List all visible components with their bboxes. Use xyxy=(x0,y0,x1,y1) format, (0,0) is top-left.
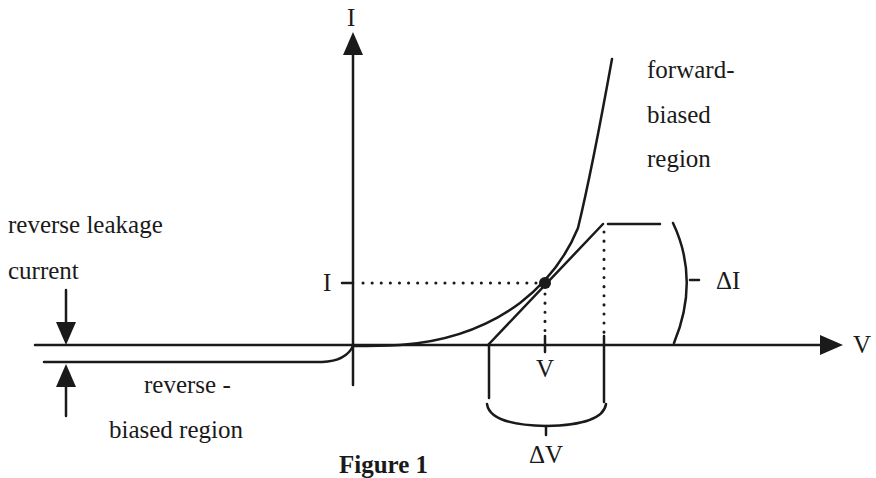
reverse-region-label-2: biased region xyxy=(109,417,243,442)
delta-i-bracket xyxy=(673,223,687,343)
leakage-arrow-down-head xyxy=(56,322,76,345)
i-axis-arrowhead xyxy=(343,32,363,55)
delta-v-label: ΔV xyxy=(529,442,563,467)
forward-bias-curve xyxy=(353,59,612,346)
diagram-canvas xyxy=(0,0,876,478)
forward-region-label-2: biased xyxy=(647,102,711,127)
diode-iv-diagram: I V forward- biased region reverse leaka… xyxy=(0,0,876,478)
reverse-bias-curve xyxy=(44,346,353,362)
operating-current-label: I xyxy=(323,270,331,295)
leakage-label-1: reverse leakage xyxy=(8,212,163,237)
v-axis-label: V xyxy=(853,332,871,357)
operating-point xyxy=(539,277,551,289)
forward-region-label-1: forward- xyxy=(647,57,734,82)
leakage-label-2: current xyxy=(8,258,79,283)
i-axis-label: I xyxy=(347,5,355,30)
v-axis-arrowhead xyxy=(820,335,843,355)
delta-v-bracket xyxy=(487,404,606,426)
reverse-region-label-1: reverse - xyxy=(144,372,231,397)
operating-voltage-label: V xyxy=(536,356,554,381)
figure-caption: Figure 1 xyxy=(339,452,428,477)
delta-i-label: ΔI xyxy=(716,268,740,293)
leakage-arrow-up-head xyxy=(56,364,76,387)
forward-region-label-3: region xyxy=(647,146,711,171)
